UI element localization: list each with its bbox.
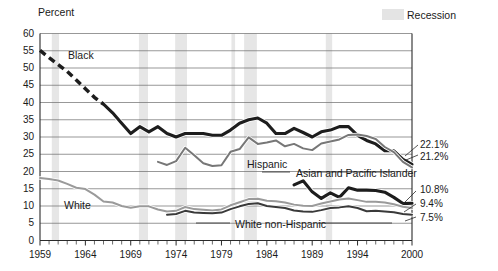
end-value-label: 7.5%	[420, 213, 443, 223]
y-tick-label: 25	[10, 149, 34, 159]
series-annotation-white: White	[64, 200, 91, 211]
series-annotation-white-non-hispanic: White non-Hispanic	[235, 219, 326, 230]
x-tick-label: 2000	[392, 250, 432, 260]
series-annotation-hispanic: Hispanic	[247, 159, 287, 170]
y-tick-label: 55	[10, 46, 34, 56]
end-value-label: 10.8%	[420, 185, 448, 195]
end-value-label: 9.4%	[420, 199, 443, 209]
end-value-label: 21.2%	[420, 152, 448, 162]
data-series-group	[40, 50, 412, 214]
end-value-label: 22.1%	[420, 140, 448, 150]
x-tick-label: 1989	[292, 250, 332, 260]
x-axis-ticks-group	[40, 241, 412, 246]
y-tick-label: 20	[10, 167, 34, 177]
x-tick-label: 1974	[156, 250, 196, 260]
x-tick-label: 1994	[338, 250, 378, 260]
recession-legend-swatch	[382, 9, 404, 20]
chart-container: Percent Recession 0510152025303540455055…	[0, 0, 498, 271]
y-tick-label: 5	[10, 218, 34, 228]
y-tick-label: 30	[10, 132, 34, 142]
chart-plot-area	[0, 0, 498, 271]
series-annotation-black: Black	[68, 50, 94, 61]
x-tick-label: 1959	[20, 250, 60, 260]
y-tick-label: 0	[10, 236, 34, 246]
y-tick-label: 40	[10, 98, 34, 108]
x-tick-label: 1969	[111, 250, 151, 260]
y-tick-label: 60	[10, 29, 34, 39]
x-tick-label: 1964	[65, 250, 105, 260]
y-tick-label: 50	[10, 63, 34, 73]
y-tick-label: 45	[10, 80, 34, 90]
y-tick-label: 10	[10, 201, 34, 211]
x-tick-label: 1984	[247, 250, 287, 260]
y-tick-label: 35	[10, 115, 34, 125]
y-tick-label: 15	[10, 184, 34, 194]
x-tick-label: 1979	[201, 250, 241, 260]
series-annotation-asian-and-pacific-islander: Asian and Pacific Islander	[296, 168, 417, 179]
